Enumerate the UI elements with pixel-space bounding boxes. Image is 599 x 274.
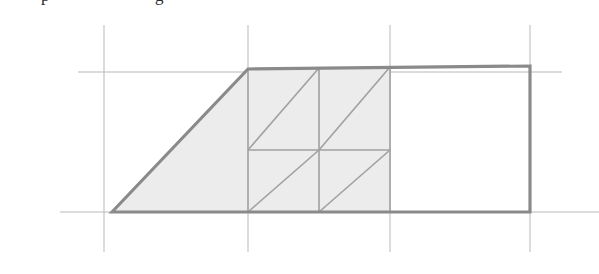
figure-canvas: p g — [0, 0, 599, 274]
geometry-diagram — [0, 0, 599, 274]
shaded-region-group — [112, 68, 390, 213]
shaded-region — [112, 68, 390, 213]
